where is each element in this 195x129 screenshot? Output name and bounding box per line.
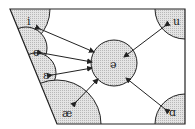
vowel-label-a: ɑ <box>169 106 176 119</box>
vowel-label-e: e <box>33 46 40 59</box>
region-ae <box>13 80 101 129</box>
arrow-to-a <box>126 78 165 109</box>
vowel-label-i: i <box>27 15 31 28</box>
arrow-to-i <box>40 29 94 52</box>
vowel-label-epsilon: ɛ <box>43 69 49 82</box>
arrow-to-u <box>124 26 165 57</box>
center-label-schwa: ə <box>110 58 117 71</box>
vowel-diagram: i e ɛ æ u ɑ ə <box>0 0 195 129</box>
vowel-label-u: u <box>173 15 180 28</box>
arrow-to-epsilon <box>52 68 92 75</box>
vowel-label-ae: æ <box>62 107 72 120</box>
